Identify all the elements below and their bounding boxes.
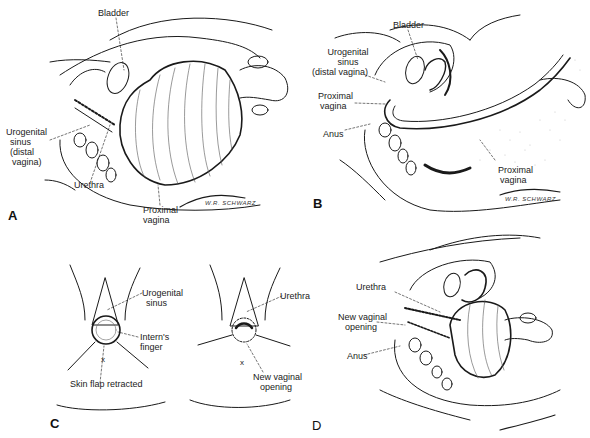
label-d-new-vaginal-opening-line2: opening (345, 322, 377, 332)
artist-signature-a: W.R. SCHWARZ (205, 200, 256, 206)
label-a-urogenital-sinus-line2: sinus (10, 137, 31, 147)
panel-d-drawing (364, 235, 560, 430)
label-b-anus: Anus (323, 129, 344, 139)
label-c-urogenital-sinus-line1: Urogenital (142, 288, 183, 298)
label-c-interns-finger-line2: finger (140, 342, 163, 352)
panel-letter-a: A (8, 208, 17, 223)
label-a-proximal-vagina-line1: Proximal (143, 205, 178, 215)
label-b-proximal-vagina-upper-line2: vagina (320, 101, 347, 111)
label-c-urethra: Urethra (280, 291, 310, 301)
label-a-urogenital-sinus-line1: Urogenital (6, 127, 47, 137)
label-c-interns-finger-line1: Intern's (140, 332, 169, 342)
label-d-anus: Anus (347, 351, 368, 361)
anatomical-figure: x x (0, 0, 590, 438)
artist-signature-b: W.R. SCHWARZ (505, 196, 556, 202)
label-c-new-vaginal-opening-line2: opening (260, 382, 292, 392)
svg-text:x: x (240, 358, 244, 367)
label-b-urogenital-sinus-line1: Urogenital (318, 47, 378, 57)
label-d-new-vaginal-opening-line1: New vaginal (338, 312, 387, 322)
label-c-new-vaginal-opening-line1: New vaginal (253, 372, 302, 382)
label-b-proximal-vagina-upper-line1: Proximal (318, 91, 353, 101)
panel-b-drawing (335, 15, 585, 211)
label-a-urogenital-sinus-line4: vagina) (12, 157, 42, 167)
panel-letter-d: D (312, 418, 321, 433)
label-b-proximal-vagina-lower-line1: Proximal (498, 165, 533, 175)
label-b-urogenital-sinus-line2: sinus (318, 57, 378, 67)
label-a-proximal-vagina-line2: vagina (143, 215, 170, 225)
label-b-urogenital-sinus-line3: (distal vagina) (312, 67, 368, 77)
label-a-bladder: Bladder (98, 8, 129, 18)
label-b-bladder: Bladder (393, 20, 424, 30)
panel-letter-c: C (50, 416, 59, 431)
svg-text:x: x (101, 355, 105, 364)
label-c-urogenital-sinus-line2: sinus (146, 298, 167, 308)
label-a-urogenital-sinus-line3: (distal (10, 147, 34, 157)
label-b-proximal-vagina-lower-line2: vagina (500, 175, 527, 185)
label-c-skin-flap-retracted: Skin flap retracted (70, 379, 143, 389)
panel-letter-b: B (313, 196, 322, 211)
label-d-urethra: Urethra (356, 282, 386, 292)
label-a-urethra: Urethra (74, 180, 104, 190)
